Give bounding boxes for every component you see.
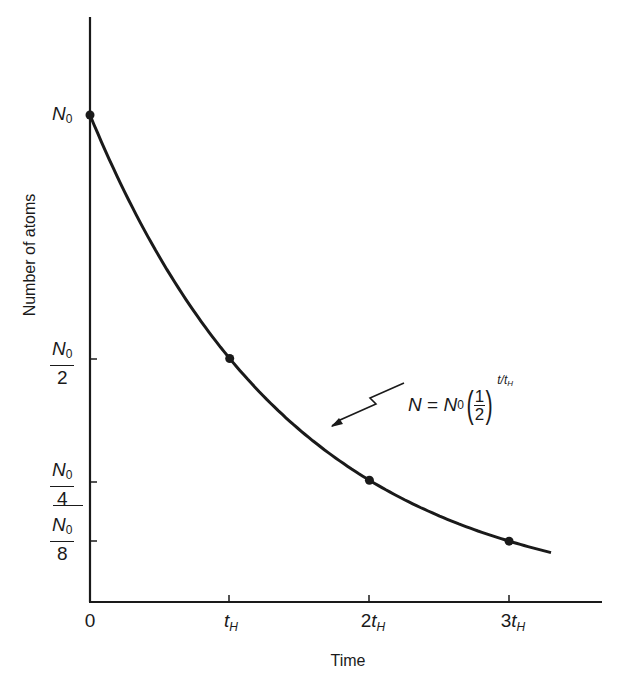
half-num-main: N (52, 338, 66, 359)
y-tick-label-half: N0 2 (50, 339, 74, 388)
eq-exp-sub: H (507, 379, 513, 388)
eq-rhs-sub: 0 (457, 398, 464, 412)
x2-coef: 2 (361, 610, 372, 631)
eq-exp-t: t/t (497, 373, 507, 387)
eq-right-paren: ) (486, 387, 493, 423)
decay-equation: N = N0 ( 1 2 ) t/tH (408, 387, 513, 423)
x2-sub: H (377, 620, 386, 634)
x0-coef: 0 (85, 610, 96, 631)
eighth-denominator: 8 (57, 542, 68, 564)
eq-half-fraction: 1 2 (474, 388, 485, 423)
x-axis-label: Time (331, 652, 366, 670)
data-points (86, 111, 514, 546)
eq-frac-den: 2 (475, 406, 484, 423)
x-tick-label-0: 0 (85, 610, 96, 632)
half-num-sub: 0 (66, 347, 73, 361)
quarter-num-sub: 0 (66, 468, 73, 482)
eighth-num-sub: 0 (66, 523, 73, 537)
quarter-numerator: N0 (50, 460, 74, 487)
eq-exponent: t/tH (497, 373, 513, 388)
data-point (86, 111, 95, 120)
data-point (505, 537, 514, 546)
data-point (365, 476, 374, 485)
n0-sub: 0 (66, 112, 73, 126)
eq-frac-num: 1 (474, 388, 485, 406)
eq-left-paren: ( (466, 387, 473, 423)
x-tick-label-1: tH (224, 610, 238, 634)
y-tick-label-eighth: N0 8 (50, 515, 74, 564)
eighth-numerator: N0 (50, 515, 74, 542)
x-tick-label-2: 2tH (361, 610, 386, 634)
quarter-num-main: N (52, 459, 66, 480)
annotation-arrow (332, 383, 404, 426)
x1-sub: H (229, 620, 238, 634)
n0-main: N (52, 103, 66, 124)
y-tick-label-n0: N0 (52, 103, 72, 126)
x-tick-label-3: 3tH (501, 610, 526, 634)
y-tick-label-quarter: N0 4 (50, 460, 74, 509)
decay-chart (0, 0, 624, 692)
eq-lhs: N (408, 394, 422, 416)
x3-coef: 3 (501, 610, 512, 631)
y-axis-label: Number of atoms (21, 194, 39, 317)
half-numerator: N0 (50, 339, 74, 366)
eq-equals: = (422, 394, 444, 416)
decay-curve (90, 115, 551, 553)
eq-rhs-main: N (443, 394, 457, 416)
eighth-num-main: N (52, 514, 66, 535)
x3-sub: H (517, 620, 526, 634)
quarter-eighth-divider (53, 505, 83, 506)
data-point (225, 354, 234, 363)
half-denominator: 2 (57, 366, 68, 388)
